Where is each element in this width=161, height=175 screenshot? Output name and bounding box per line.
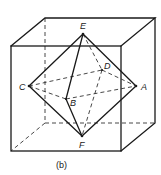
- vertex-D-point: [101, 69, 103, 71]
- edge-E-D: [83, 34, 102, 70]
- label-F: F: [79, 140, 85, 150]
- cube-octahedron-diagram: E D C A B F (b): [0, 0, 161, 175]
- cube-right-face: [121, 18, 155, 151]
- cube-bottom-left-depth-edge: [11, 123, 45, 151]
- edge-C-F: [29, 86, 82, 136]
- edge-E-C: [29, 34, 83, 86]
- edge-C-B: [29, 86, 66, 99]
- cube-hidden-edges: [11, 18, 155, 151]
- label-A: A: [140, 82, 147, 92]
- edge-B-A: [66, 86, 136, 99]
- edge-E-B: [66, 34, 83, 99]
- vertex-E-point: [82, 33, 85, 36]
- vertex-B-point: [65, 98, 67, 100]
- label-D: D: [104, 61, 111, 71]
- edge-E-A: [83, 34, 136, 86]
- vertex-A-point: [135, 85, 138, 88]
- edge-C-D: [29, 70, 102, 86]
- label-B: B: [70, 98, 76, 108]
- label-E: E: [80, 21, 87, 31]
- vertex-C-point: [28, 85, 31, 88]
- figure-caption: (b): [56, 160, 67, 170]
- vertex-F-point: [81, 135, 84, 138]
- edge-D-A: [102, 70, 136, 86]
- label-C: C: [19, 82, 26, 92]
- cube-visible-edges: [11, 18, 155, 151]
- edge-A-F: [82, 86, 136, 136]
